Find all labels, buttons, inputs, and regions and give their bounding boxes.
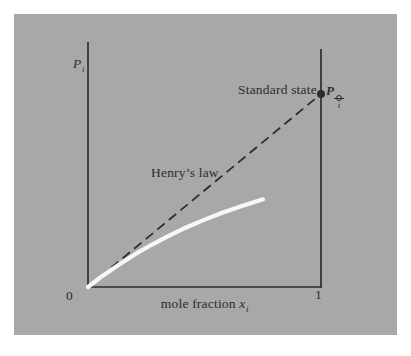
henrys-law-annotation: Henry’s law (151, 166, 219, 181)
standard-state-annotation: Standard state (238, 83, 317, 98)
scanned-page: Pi Standard state Pi Henry’s law 0 1 mol… (0, 0, 411, 356)
x-axis-symbol: x (239, 296, 245, 311)
henrys-law-line (88, 94, 321, 287)
partial-pressure-curve (88, 199, 263, 287)
x-axis-label: mole fraction xi (88, 297, 321, 312)
standard-state-symbol-icon (336, 95, 342, 101)
origin-tick-label: 0 (66, 289, 73, 304)
y-axis-symbol: P (73, 56, 81, 71)
x-axis-text: mole fraction (161, 296, 236, 311)
standard-state-point (317, 90, 325, 98)
y-axis-subscript: i (82, 64, 85, 74)
standard-state-point-label: Pi (326, 84, 342, 109)
point-subscript: i (338, 101, 341, 109)
point-symbol: P (326, 83, 334, 98)
x-axis-subscript: i (246, 304, 249, 314)
y-axis-label: Pi (73, 57, 84, 72)
point-sup-sub-stack: i (336, 95, 342, 109)
